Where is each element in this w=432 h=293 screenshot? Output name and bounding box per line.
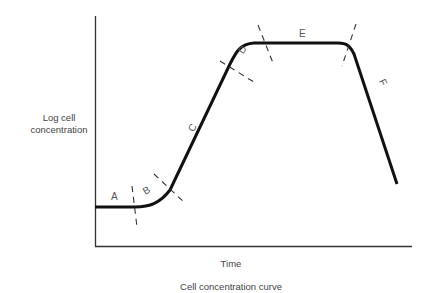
phase-label-b: B xyxy=(141,184,153,197)
figure-caption: Cell concentration curve xyxy=(130,281,332,292)
phase-label-a: A xyxy=(111,191,118,202)
y-axis-label-line2: concentration xyxy=(18,124,100,136)
phase-label-e: E xyxy=(299,28,306,39)
y-axis-label: Log cell concentration xyxy=(18,112,100,136)
y-axis-label-line1: Log cell xyxy=(18,112,100,124)
phase-label-f: F xyxy=(377,77,390,87)
x-axis-label: Time xyxy=(200,258,262,269)
growth-curve-diagram: A B C D E F xyxy=(0,0,432,293)
growth-curve xyxy=(95,43,397,207)
